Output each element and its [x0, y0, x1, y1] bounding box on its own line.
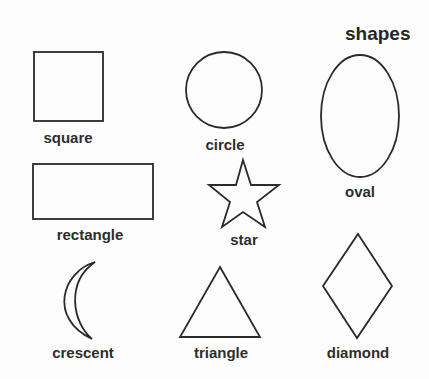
crescent-shape: [64, 262, 95, 339]
label-triangle: triangle: [194, 345, 248, 360]
triangle-shape: [180, 267, 260, 337]
square-shape: [34, 52, 103, 121]
diamond-shape: [323, 234, 392, 338]
label-circle: circle: [205, 137, 244, 152]
star-shape: [209, 160, 279, 227]
label-crescent: crescent: [52, 345, 114, 360]
circle-shape: [186, 52, 262, 128]
worksheet-page: shapes square circle oval rectangle star…: [0, 0, 429, 379]
label-square: square: [43, 130, 92, 145]
rectangle-shape: [33, 164, 153, 219]
label-diamond: diamond: [327, 345, 390, 360]
label-oval: oval: [345, 184, 375, 199]
label-star: star: [230, 232, 258, 247]
oval-shape: [321, 55, 399, 177]
label-rectangle: rectangle: [57, 227, 124, 242]
page-title: shapes: [345, 24, 410, 43]
